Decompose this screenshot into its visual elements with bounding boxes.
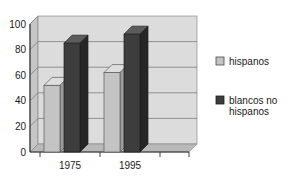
legend-swatch-hispanos [216,57,224,65]
legend-label-blancos-no-hispanos: blancos no [229,95,278,106]
y-tick-label-60: 60 [15,70,27,81]
y-tick-label-0: 0 [20,147,26,158]
x-tick-label-1995: 1995 [119,160,142,171]
chart-svg: 100 80 60 40 20 0 [0,0,290,181]
x-tick-label-1975: 1975 [59,160,82,171]
legend-label-blancos-no-hispanos-line2: hispanos [229,106,269,117]
legend-label-hispanos: hispanos [229,56,269,67]
y-tick-label-20: 20 [15,121,27,132]
y-tick-label-100: 100 [9,19,26,30]
bar-chart: 100 80 60 40 20 0 [0,0,290,181]
plot-left-wall [30,16,38,152]
y-tick-label-80: 80 [15,44,27,55]
legend-swatch-blancos-no-hispanos [216,96,224,104]
y-tick-label-40: 40 [15,95,27,106]
bar-1995-blancos-no-hispanos [124,26,148,152]
bar-1975-blancos-no-hispanos [64,35,88,152]
